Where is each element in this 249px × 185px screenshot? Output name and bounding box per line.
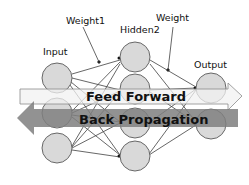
edges-input-hidden [70, 60, 120, 157]
back-propagation-label: Back Propagation [79, 112, 208, 127]
edges-hidden-output [149, 60, 196, 155]
input-label: Input [43, 46, 68, 57]
feed-forward-label: Feed Forward [86, 89, 186, 104]
hidden-label: Hidden2 [120, 24, 160, 35]
weight-label: Weight [156, 12, 189, 23]
neural-network-diagram: Weight1 Weight Input Hidden2 Output Feed… [0, 0, 249, 185]
input-node [42, 133, 72, 163]
weight1-label: Weight1 [66, 15, 105, 26]
hidden-node [120, 141, 150, 171]
output-layer [196, 73, 226, 139]
hidden-layer [120, 42, 150, 171]
hidden-node [120, 42, 150, 72]
output-label: Output [194, 59, 227, 70]
input-node [42, 63, 72, 93]
